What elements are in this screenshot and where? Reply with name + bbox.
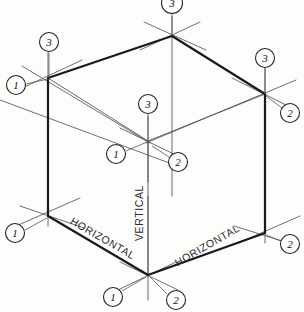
balloon-top-right-3[interactable]: 3 <box>256 49 275 95</box>
isometric-cube-figure: HORIZONTAL VERTICAL HORIZONTAL 3 3 1 <box>0 0 304 312</box>
edge-top-left <box>48 36 172 78</box>
balloon-leader <box>126 142 147 151</box>
edge-top-right <box>172 36 265 94</box>
balloon-bottom-apex-2[interactable]: 2 <box>150 277 186 310</box>
balloon-bottom-apex-1[interactable]: 1 <box>104 277 147 307</box>
axis-line-arm-a-top-left <box>18 60 82 90</box>
balloon-label: 3 <box>45 36 52 48</box>
balloon-label: 3 <box>261 52 268 64</box>
balloon-label: 2 <box>287 238 293 250</box>
balloon-leader <box>266 235 281 241</box>
label-vertical-center: VERTICAL <box>133 185 145 241</box>
balloon-label: 3 <box>168 0 175 9</box>
balloon-label: 2 <box>287 107 293 119</box>
label-horizontal-left: HORIZONTAL <box>68 215 137 262</box>
balloon-center-back-3[interactable]: 3 <box>139 95 158 142</box>
drawing-canvas: HORIZONTAL VERTICAL HORIZONTAL 3 3 1 <box>0 0 304 312</box>
balloon-top-right-2[interactable]: 2 <box>266 96 300 123</box>
cube-visible-edges <box>48 36 265 275</box>
balloon-leader <box>150 277 167 294</box>
balloon-label: 1 <box>13 79 19 91</box>
axis-line-arm-b-top-left <box>22 66 150 143</box>
balloon-bottom-right-2[interactable]: 2 <box>266 235 300 254</box>
axis-line-arm-b-bottom-apex <box>118 262 176 290</box>
balloon-leader <box>26 79 48 84</box>
direction-labels-group: HORIZONTAL VERTICAL HORIZONTAL <box>68 185 241 268</box>
hidden-edge-right-back <box>148 94 265 141</box>
balloon-top-left-3[interactable]: 3 <box>40 33 59 79</box>
balloon-label: 1 <box>113 148 119 160</box>
balloon-label: 1 <box>12 227 18 239</box>
balloon-label: 2 <box>175 156 181 168</box>
balloon-leader <box>122 277 146 291</box>
balloon-label: 1 <box>110 291 116 303</box>
balloon-top-apex-3[interactable]: 3 <box>162 0 183 36</box>
balloon-callouts-group: 3 3 1 3 2 <box>6 0 300 310</box>
hidden-edge-left-back <box>48 78 148 141</box>
balloon-leader <box>25 218 47 230</box>
balloon-label: 2 <box>173 294 179 306</box>
axis-line-left-top-apex <box>144 22 206 50</box>
balloon-label: 3 <box>144 98 151 110</box>
